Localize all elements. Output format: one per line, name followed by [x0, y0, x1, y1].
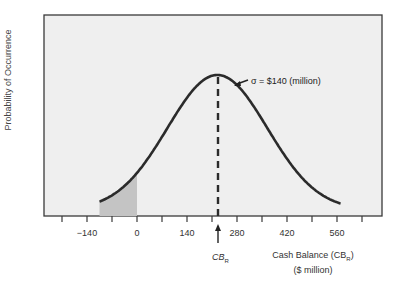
- sigma-annotation: σ = $140 (million): [251, 76, 321, 86]
- svg-text:−140: −140: [77, 228, 97, 238]
- x-axis-title: Cash Balance (CBR) ($ million): [268, 250, 358, 276]
- svg-text:140: 140: [179, 228, 194, 238]
- y-axis-label: Probability of Occurrence: [3, 10, 15, 150]
- normal-distribution-chart: −1400140280420560: [0, 0, 397, 281]
- plot-area: [44, 15, 382, 216]
- mean-up-arrow-icon: [215, 224, 221, 243]
- svg-text:0: 0: [134, 228, 139, 238]
- svg-text:560: 560: [329, 228, 344, 238]
- mean-marker-label: CBR: [212, 252, 229, 264]
- x-axis-tick-labels: −1400140280420560: [77, 228, 345, 238]
- x-axis-ticks: [62, 216, 362, 222]
- svg-text:420: 420: [279, 228, 294, 238]
- svg-text:280: 280: [229, 228, 244, 238]
